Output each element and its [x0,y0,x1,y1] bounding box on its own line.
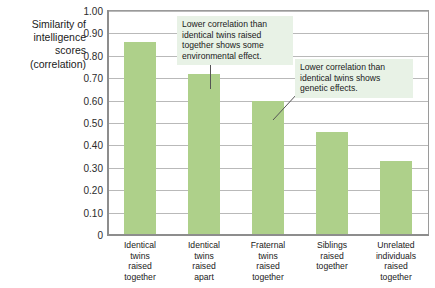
annotation-1-leader-line [210,63,211,89]
x-axis-line [107,234,429,236]
x-axis-category-label: Identicaltwinsraisedapart [172,240,236,282]
x-axis-category-label-line: Identical [172,240,236,251]
y-axis-tick-label: 1.00 [61,6,103,17]
bar [316,132,348,235]
y-axis-tick-label: 0.90 [61,28,103,39]
bar [188,74,220,235]
x-axis-category-label: Identicaltwinsraisedtogether [108,240,172,282]
gridline [108,11,428,12]
y-axis-tick-label: 0.50 [61,118,103,129]
x-axis-category-label-line: Fraternal [236,240,300,251]
annotation-1-line-3: together shows some [182,40,288,51]
annotation-2-line-2: identical twins shows [300,73,408,84]
x-axis-category-label-line: raised [172,261,236,272]
x-axis-category-label-line: twins [172,251,236,262]
x-axis-category-label-line: together [108,272,172,283]
x-axis-category-label-line: together [236,272,300,283]
y-axis-tick-label: 0.30 [61,162,103,173]
x-axis-category-label: Unrelatedindividualsraisedtogether [364,240,428,282]
y-axis-tick-label: 0.40 [61,140,103,151]
y-axis-tick-label: 0.80 [61,50,103,61]
annotation-1-line-1: Lower correlation than [182,19,288,30]
annotation-1-line-2: identical twins raised [182,30,288,41]
x-axis-category-label-line: raised [300,251,364,262]
x-axis-category-label-line: twins [236,251,300,262]
y-axis-tick-label: 0.60 [61,95,103,106]
x-axis-category-labels: IdenticaltwinsraisedtogetherIdenticaltwi… [108,240,428,286]
x-axis-category-label-line: apart [172,272,236,283]
bar [380,161,412,235]
y-axis-tick-label: 0.10 [61,207,103,218]
x-axis-category-label-line: twins [108,251,172,262]
x-axis-category-label-line: together [364,272,428,283]
y-axis-tick-label: 0.70 [61,73,103,84]
annotation-2-line-1: Lower correlation than [300,62,408,73]
x-axis-category-label: Siblingsraisedtogether [300,240,364,272]
x-axis-category-label-line: raised [364,261,428,272]
annotation-genetic-effects: Lower correlation than identical twins s… [295,59,413,98]
bar [124,42,156,235]
x-axis-category-label-line: raised [236,261,300,272]
y-axis-tick-label: 0.20 [61,185,103,196]
x-axis-category-label-line: Unrelated [364,240,428,251]
annotation-2-line-3: genetic effects. [300,83,408,94]
bar-chart: Similarity of intelligence scores (corre… [0,0,435,288]
x-axis-category-label-line: raised [108,261,172,272]
x-axis-category-label-line: individuals [364,251,428,262]
y-axis-tick-label: 0 [61,230,103,241]
x-axis-category-label-line: Identical [108,240,172,251]
y-axis-line [107,10,109,236]
x-axis-category-label-line: together [300,261,364,272]
y-axis-tick-labels: 1.000.900.800.700.600.500.400.300.200.10… [57,11,103,235]
x-axis-category-label: Fraternaltwinsraisedtogether [236,240,300,282]
x-axis-category-label-line: Siblings [300,240,364,251]
annotation-environmental-effect: Lower correlation than identical twins r… [177,16,293,65]
annotation-1-line-4: environmental effect. [182,51,288,62]
